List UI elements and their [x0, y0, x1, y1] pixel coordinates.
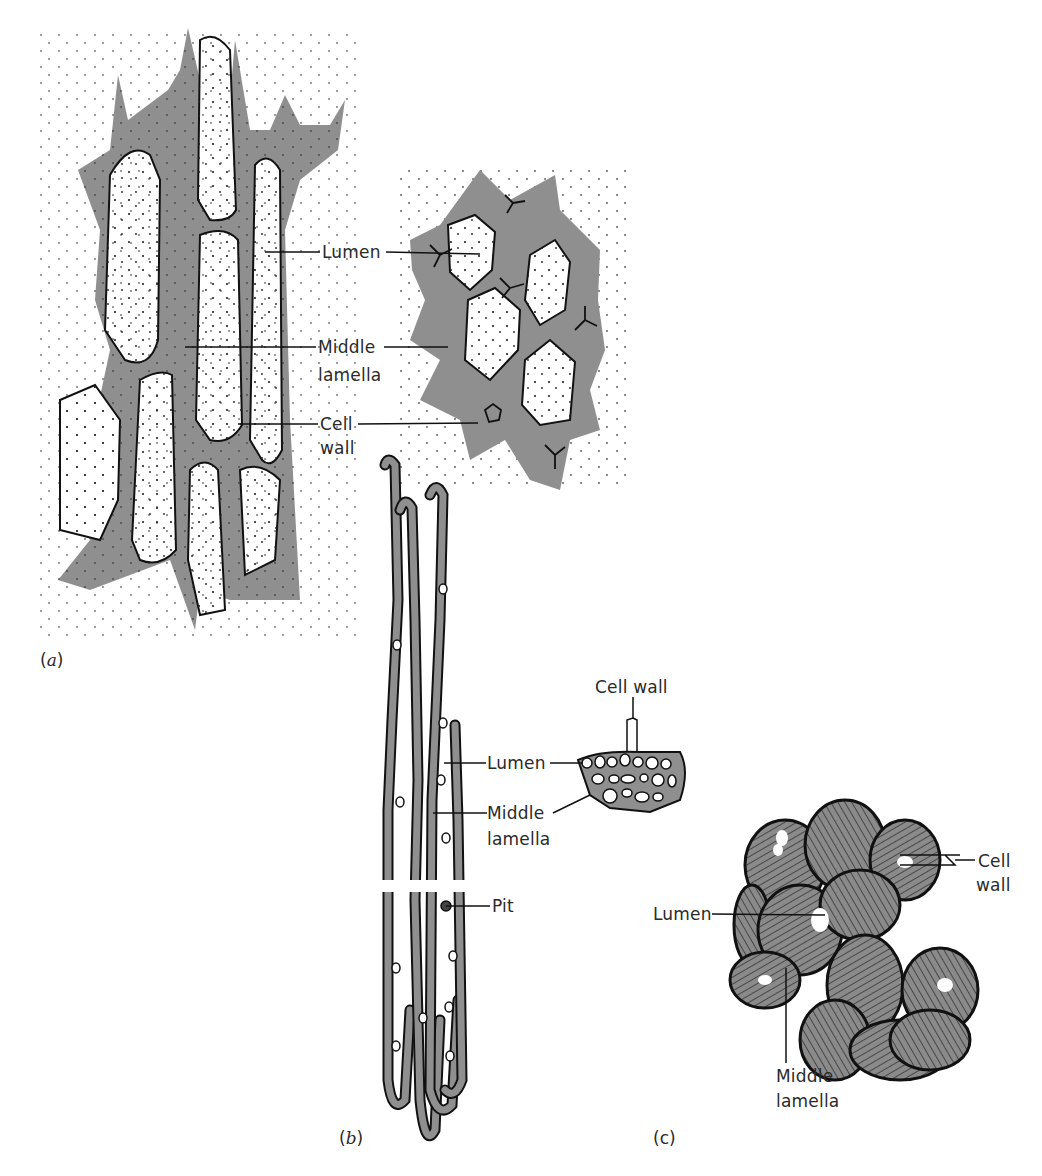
panel-b-label-lumen: Lumen: [487, 752, 546, 774]
panel-c-sclereids: [730, 800, 978, 1080]
panel-a-label-cell-wall-line1: Cell: [320, 413, 353, 435]
panel-b-label-middle-lamella-line2: lamella: [487, 828, 550, 850]
panel-a-label-middle-lamella-line2: lamella: [318, 364, 381, 386]
panel-a-letter: a: [47, 650, 57, 670]
panel-b-label-middle-lamella-line1: Middle: [487, 802, 544, 824]
panel-b-fibers: [370, 460, 480, 1136]
plant-cell-figure: Lumen Middle lamella Cell wall (a) Cell …: [0, 0, 1042, 1176]
panel-c-label-middle-lamella-line1: Middle: [776, 1065, 833, 1087]
panel-b-label-pit: Pit: [492, 895, 514, 917]
panel-a-caption: (a): [40, 650, 63, 670]
panel-b-cross-section: [578, 752, 685, 812]
panel-c-letter: c: [660, 1128, 669, 1148]
panel-c-label-cell-wall-line1: Cell: [978, 850, 1011, 872]
panel-a-label-cell-wall-line2: wall: [320, 437, 355, 459]
panel-a-label-middle-lamella-line1: Middle: [318, 336, 375, 358]
panel-c-label-lumen: Lumen: [653, 903, 712, 925]
panel-c-label-cell-wall-line2: wall: [976, 874, 1011, 896]
panel-c-caption: (c): [653, 1128, 676, 1148]
panel-a-label-lumen: Lumen: [322, 241, 381, 263]
panel-b-letter: b: [346, 1128, 357, 1148]
panel-a-cross-section: [395, 170, 630, 490]
panel-b-caption: (b): [339, 1128, 363, 1148]
figure-artwork: [0, 0, 1042, 1176]
panel-c-label-middle-lamella-line2: lamella: [776, 1090, 839, 1112]
panel-a-longitudinal-section: [40, 28, 360, 640]
panel-b-label-cell-wall: Cell wall: [595, 676, 668, 698]
